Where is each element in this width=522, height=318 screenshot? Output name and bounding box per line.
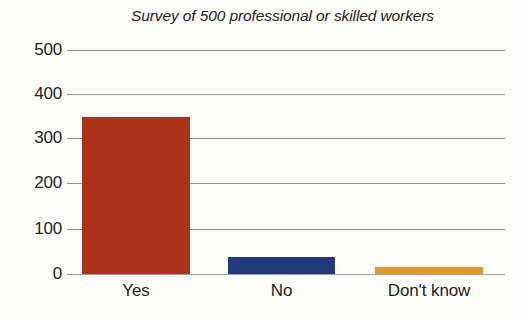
x-tick-label-yes: Yes bbox=[82, 281, 190, 301]
y-tick-label-200: 200 bbox=[2, 173, 62, 193]
bar-no[interactable] bbox=[228, 257, 335, 274]
plot-area: 500 400 300 200 100 0 Yes No Don't know bbox=[0, 0, 522, 318]
bar-yes[interactable] bbox=[82, 117, 190, 274]
y-tick-label-100: 100 bbox=[2, 219, 62, 239]
x-axis-line bbox=[67, 274, 505, 275]
y-tick-label-300: 300 bbox=[2, 128, 62, 148]
bar-chart: Survey of 500 professional or skilled wo… bbox=[0, 0, 522, 318]
y-tick-label-400: 400 bbox=[2, 84, 62, 104]
x-tick-label-dont-know: Don't know bbox=[370, 281, 488, 301]
y-tick-label-500: 500 bbox=[2, 40, 62, 60]
gridline-400 bbox=[67, 94, 505, 95]
x-tick-label-no: No bbox=[228, 281, 335, 301]
y-tick-label-0: 0 bbox=[2, 264, 62, 284]
gridline-500 bbox=[67, 50, 505, 51]
bar-dont-know[interactable] bbox=[375, 267, 483, 274]
